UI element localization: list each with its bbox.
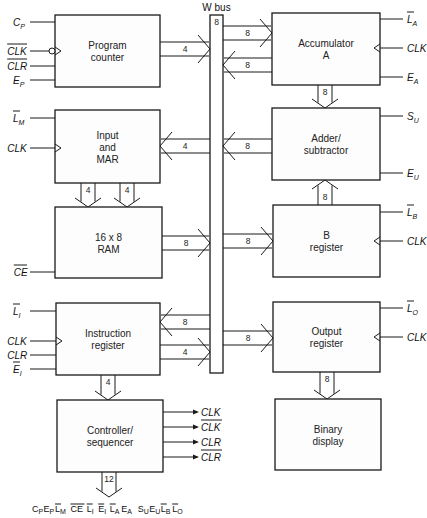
signal-label: CLK bbox=[7, 143, 28, 154]
bus-link-bus-to-acc: 8 bbox=[223, 19, 272, 47]
w-bus-width-label: 8 bbox=[214, 17, 219, 27]
control-input-la: LA bbox=[380, 12, 418, 27]
arrowhead-icon bbox=[223, 51, 235, 79]
signal-label: EP bbox=[13, 75, 25, 88]
controller-output-not-clk: CLK bbox=[163, 420, 222, 433]
bus-width-label: 8 bbox=[183, 317, 188, 327]
control-input-clr: CLR bbox=[7, 350, 56, 361]
block-label: Controller/ bbox=[87, 425, 133, 436]
control-input-ei: EI bbox=[13, 362, 56, 377]
vlink-mar-to-ram-1: 4 bbox=[75, 183, 101, 207]
arrowhead-icon bbox=[314, 390, 340, 399]
svg-text:CP: CP bbox=[32, 504, 44, 515]
block-label: Accumulator bbox=[298, 38, 354, 49]
arrowhead-icon bbox=[260, 19, 272, 47]
signal-label: CLK bbox=[7, 46, 28, 57]
bus-width-label: 4 bbox=[106, 377, 111, 387]
bus-width-label: 8 bbox=[245, 28, 250, 38]
bus-link-pc-to-bus: 4 bbox=[160, 35, 210, 63]
signal-label: CLK bbox=[407, 43, 427, 54]
vlink-b-to-adder: 8 bbox=[312, 180, 338, 205]
signal-label: LB bbox=[407, 207, 418, 220]
control-input-clr: CLR bbox=[7, 59, 55, 72]
signal-label: LM bbox=[13, 113, 25, 126]
controller-output-clr: CLR bbox=[163, 437, 221, 448]
block-adder-subtractor: Adder/subtractor bbox=[272, 108, 380, 180]
svg-text:LB: LB bbox=[161, 504, 171, 515]
bus-link-adder-to-bus: 8 bbox=[223, 132, 272, 160]
control-input-ea: EA bbox=[380, 72, 419, 85]
control-word: CPEPLMCELIEILAEASUEULBLO bbox=[32, 504, 183, 515]
signal-label: CLK bbox=[201, 407, 222, 418]
signal-label: CLR bbox=[201, 437, 221, 448]
control-word-bit-su: SU bbox=[138, 504, 149, 515]
block-label: RAM bbox=[97, 244, 119, 255]
arrowhead-icon bbox=[223, 132, 235, 160]
block-label: register bbox=[310, 338, 344, 349]
arrow-right-icon bbox=[193, 455, 199, 460]
bus-width-label: 4 bbox=[125, 185, 130, 195]
control-word-bit-lb: LB bbox=[161, 504, 171, 515]
block-label: Adder/ bbox=[311, 133, 341, 144]
control-input-clk: CLK bbox=[7, 336, 62, 347]
block-output-register: Outputregister bbox=[273, 302, 380, 372]
arrow-right-icon bbox=[193, 440, 199, 445]
bus-width-label: 4 bbox=[86, 185, 91, 195]
block-label: Input bbox=[96, 130, 118, 141]
bus-link-bus-to-b: 8 bbox=[223, 227, 273, 255]
arrowhead-icon bbox=[114, 198, 140, 207]
arrowhead-icon bbox=[312, 99, 338, 108]
block-label: Program bbox=[88, 40, 126, 51]
arrowhead-icon bbox=[96, 488, 122, 497]
block-label: counter bbox=[91, 52, 125, 63]
block-controller-sequencer: Controller/sequencer bbox=[57, 400, 163, 472]
bus-link-ram-to-bus: 8 bbox=[162, 229, 210, 257]
vlink-out-to-display: 8 bbox=[314, 372, 340, 399]
svg-text:LM: LM bbox=[55, 504, 66, 515]
bus-width-label: 8 bbox=[246, 333, 251, 343]
block-ram: 16 x 8RAM bbox=[55, 207, 162, 278]
bus-width-label: 8 bbox=[323, 87, 328, 97]
control-word-bit-cp: CP bbox=[32, 504, 44, 515]
arrowhead-icon bbox=[75, 198, 101, 207]
svg-text:EP: EP bbox=[44, 504, 55, 515]
block-label: Binary bbox=[314, 424, 342, 435]
control-word-bit-eu: EU bbox=[149, 504, 160, 515]
control-input-cp: CP bbox=[13, 17, 55, 30]
block-label: register bbox=[91, 340, 125, 351]
control-word-bit-ce: CE bbox=[71, 504, 85, 514]
bus-width-label: 8 bbox=[246, 236, 251, 246]
bus-width-label: 8 bbox=[325, 374, 330, 384]
signal-label: CLR bbox=[7, 61, 27, 72]
block-b-register: Bregister bbox=[273, 205, 380, 277]
block-accumulator: AccumulatorA bbox=[272, 13, 380, 85]
svg-text:SU: SU bbox=[138, 504, 149, 515]
controller-output-not-clr: CLR bbox=[163, 450, 222, 463]
signal-label: SU bbox=[407, 111, 420, 124]
sap1-architecture-diagram: W bus8 4488488888 84484812 Programcounte… bbox=[0, 0, 427, 518]
bus-width-label: 12 bbox=[104, 474, 114, 484]
control-input-li: LI bbox=[13, 304, 56, 319]
svg-text:LA: LA bbox=[110, 504, 120, 515]
signal-label: LA bbox=[407, 14, 418, 27]
control-word-bit-ep: EP bbox=[44, 504, 55, 515]
bus-width-label: 4 bbox=[183, 347, 188, 357]
control-input-clk: CLK bbox=[7, 44, 61, 57]
block-label: B bbox=[323, 230, 330, 241]
block-binary-display: Binarydisplay bbox=[275, 399, 381, 470]
control-input-lb: LB bbox=[380, 205, 418, 220]
block-label: register bbox=[310, 242, 344, 253]
signal-label: EU bbox=[407, 168, 420, 181]
block-program-counter: Programcounter bbox=[55, 15, 160, 87]
svg-text:EU: EU bbox=[149, 504, 160, 515]
block-label: A bbox=[323, 50, 330, 61]
control-input-ce: CE bbox=[14, 265, 55, 278]
arrowhead-icon bbox=[198, 229, 210, 257]
svg-text:EI: EI bbox=[98, 504, 106, 515]
arrowhead-icon bbox=[261, 324, 273, 352]
control-input-eu: EU bbox=[380, 168, 420, 181]
svg-text:CE: CE bbox=[71, 504, 84, 514]
control-input-lm: LM bbox=[13, 111, 55, 126]
block-label: subtractor bbox=[304, 145, 349, 156]
block-instruction-register: Instructionregister bbox=[56, 303, 160, 375]
